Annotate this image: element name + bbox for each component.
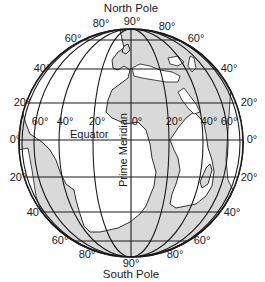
lon-e20-label: 20° — [166, 115, 183, 127]
south-pole-label: South Pole — [103, 268, 159, 280]
lat-s20-left-label: 20° — [10, 171, 27, 183]
lat-n60-right-label: 60° — [188, 32, 205, 44]
lat-n20-left-label: 20° — [14, 96, 31, 108]
lat-n20-right-label: 20° — [241, 96, 258, 108]
lat-eq-left-label: 0° — [10, 133, 21, 145]
lat-s80-left-label: 80° — [79, 248, 96, 260]
lon-e60-label: 60° — [221, 115, 238, 127]
lon-pm0-label: 0° — [132, 115, 143, 127]
lat-s80-right-label: 80° — [167, 248, 184, 260]
lat-n40-right-label: 40° — [221, 62, 238, 74]
lat-s20-right-label: 20° — [241, 171, 258, 183]
lat-eq-right-label: 0° — [247, 133, 258, 145]
lat-s60-left-label: 60° — [52, 234, 69, 246]
lat-s40-right-label: 40° — [224, 206, 241, 218]
prime-meridian-label: Prime Meridian — [117, 113, 129, 187]
lon-e40-label: 40° — [201, 115, 218, 127]
lon-w20-label: 20° — [89, 115, 106, 127]
lat-n90-label: 90° — [124, 15, 141, 27]
globe-diagram: North Pole South Pole 90° 90° 80° 80° 60… — [0, 0, 265, 282]
lat-s90-label: 90° — [123, 257, 140, 269]
lat-s40-left-label: 40° — [27, 206, 44, 218]
lat-n40-left-label: 40° — [34, 62, 51, 74]
lat-s60-right-label: 60° — [194, 234, 211, 246]
lat-n80-right-label: 80° — [159, 20, 176, 32]
lon-w40-label: 40° — [57, 115, 74, 127]
lon-w60-label: 60° — [32, 115, 49, 127]
equator-label: Equator — [70, 128, 109, 140]
lat-n80-left-label: 80° — [93, 17, 110, 29]
north-pole-label: North Pole — [104, 2, 158, 14]
lat-n60-left-label: 60° — [65, 32, 82, 44]
